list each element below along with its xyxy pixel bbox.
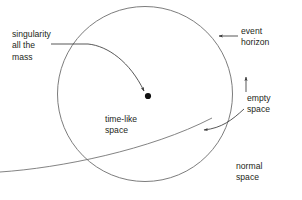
label-singularity: singularity all the mass — [12, 29, 51, 63]
singularity-leader-arrow — [88, 44, 144, 91]
empty-space-leader-arrow — [204, 109, 244, 130]
event-horizon-circle — [58, 7, 233, 182]
label-event-horizon: event horizon — [241, 26, 269, 49]
label-timelike-space: time-like space — [105, 114, 137, 137]
label-normal-space: normal space — [236, 161, 262, 184]
singularity-dot — [145, 93, 151, 99]
blackhole-diagram: singularity all the mass event horizon e… — [0, 0, 302, 200]
label-empty-space: empty space — [247, 93, 271, 116]
